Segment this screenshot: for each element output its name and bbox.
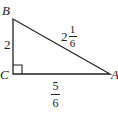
side-ca-length: 5 6 (51, 80, 60, 109)
vertex-label-b: B (2, 4, 10, 17)
triangle-diagram: B C A 2 2 1 6 5 6 (0, 0, 118, 113)
side-ab-whole: 2 (61, 30, 68, 43)
vertex-label-c: C (0, 68, 9, 81)
fraction-bar (51, 94, 60, 95)
side-ab-length: 2 1 6 (61, 24, 77, 49)
side-ab-fraction: 1 6 (69, 24, 77, 49)
side-ca-denominator: 6 (53, 97, 59, 109)
side-ca-numerator: 5 (53, 80, 59, 92)
side-ab-numerator: 1 (70, 24, 76, 35)
right-angle-marker (13, 65, 22, 74)
side-bc-length: 2 (4, 38, 11, 51)
side-ab-denominator: 6 (70, 38, 76, 49)
vertex-label-a: A (111, 68, 118, 81)
